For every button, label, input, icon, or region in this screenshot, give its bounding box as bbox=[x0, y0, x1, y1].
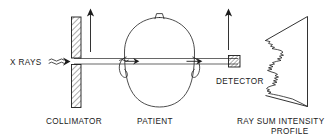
profile-label-line2: PROFILE bbox=[271, 127, 309, 136]
profile-trace-icon bbox=[266, 17, 308, 107]
collimator bbox=[72, 17, 82, 108]
hatched-square-icon bbox=[229, 56, 241, 68]
translation-arrow-collimator bbox=[87, 9, 94, 53]
collimator-label: COLLIMATOR bbox=[46, 117, 102, 126]
detector-label: DETECTOR bbox=[216, 77, 264, 86]
translation-arrow-detector bbox=[225, 9, 232, 51]
wavy-arrow-icon bbox=[49, 57, 71, 65]
diagram-canvas: X RAYS COLLIMATOR PATIENT DETECTOR RAY S… bbox=[0, 0, 333, 139]
patient-label: PATIENT bbox=[137, 117, 173, 126]
x-rays-label: X RAYS bbox=[10, 58, 42, 67]
head-outline-icon bbox=[119, 14, 199, 107]
pencil-beam bbox=[74, 59, 238, 65]
ct-scan-geometry-diagram: X RAYS COLLIMATOR PATIENT DETECTOR RAY S… bbox=[0, 0, 333, 139]
profile-label-line1: RAY SUM INTENSITY bbox=[237, 117, 325, 126]
